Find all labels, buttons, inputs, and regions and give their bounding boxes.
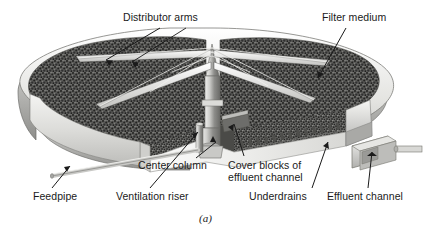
label-cover-blocks-of-effluent-channel: Cover blocks of effluent channel	[228, 160, 303, 183]
label-underdrains: Underdrains	[249, 191, 307, 203]
label-cover-blocks-line2: effluent channel	[228, 171, 303, 183]
label-filter-medium: Filter medium	[322, 12, 386, 24]
figure-trickling-filter: Distributor arms Filter medium Center co…	[0, 0, 424, 234]
figure-caption: (a)	[199, 212, 212, 224]
label-cover-blocks-line1: Cover blocks of	[228, 159, 301, 171]
effluent-channel	[346, 100, 422, 170]
label-ventilation-riser: Ventilation riser	[116, 191, 189, 203]
label-feedpipe: Feedpipe	[33, 191, 77, 203]
label-distributor-arms: Distributor arms	[123, 12, 198, 24]
label-effluent-channel: Effluent channel	[327, 191, 403, 203]
label-center-column: Center column	[138, 160, 207, 172]
ventilation-riser	[196, 123, 203, 153]
